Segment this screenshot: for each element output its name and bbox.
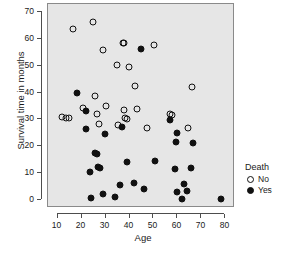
data-point-yes (99, 190, 106, 197)
data-point-yes (124, 158, 131, 165)
legend-label-no: No (258, 175, 269, 184)
y-axis-line (41, 11, 42, 199)
data-point-yes (101, 130, 108, 137)
x-axis-tick (81, 214, 82, 218)
y-axis-tick (37, 38, 41, 39)
data-point-yes (172, 139, 179, 146)
data-point-yes (137, 46, 144, 53)
data-point-no (126, 64, 133, 71)
data-point-yes (97, 165, 104, 172)
x-axis-title: Age (0, 232, 286, 243)
legend-title: Death (245, 163, 286, 173)
data-point-yes (151, 157, 158, 164)
y-axis-tick-label: 70 (5, 7, 34, 16)
data-point-yes (179, 196, 186, 203)
data-point-yes (119, 124, 126, 131)
data-point-no (120, 106, 127, 113)
data-point-yes (74, 90, 81, 97)
data-point-yes (82, 108, 89, 115)
data-point-no (151, 42, 158, 49)
x-axis-tick-label: 80 (220, 221, 229, 230)
x-axis-tick (152, 214, 153, 218)
y-axis-tick (37, 118, 41, 119)
data-point-no (121, 39, 128, 46)
x-axis-tick-label: 70 (196, 221, 205, 230)
x-axis-tick (200, 214, 201, 218)
y-axis-tick (37, 11, 41, 12)
x-axis-tick-label: 10 (52, 221, 61, 230)
data-point-yes (116, 182, 123, 189)
data-point-no (90, 19, 97, 26)
data-point-no (188, 84, 195, 91)
data-point-yes (187, 165, 194, 172)
data-point-no (91, 93, 98, 100)
data-point-yes (130, 180, 137, 187)
data-point-no (70, 25, 77, 32)
x-axis-tick (129, 214, 130, 218)
x-axis-tick-label: 40 (124, 221, 133, 230)
data-point-yes (93, 151, 100, 158)
data-point-yes (181, 180, 188, 187)
x-axis-tick (57, 214, 58, 218)
data-point-no (113, 61, 120, 68)
y-axis-tick (37, 172, 41, 173)
data-point-yes (171, 165, 178, 172)
legend-item-yes: Yes (245, 185, 286, 196)
data-point-yes (173, 130, 180, 137)
data-point-no (133, 106, 140, 113)
data-point-no (65, 115, 72, 122)
data-point-yes (173, 188, 180, 195)
data-point-yes (189, 140, 196, 147)
filled-circle-icon (245, 187, 256, 194)
data-point-yes (87, 169, 94, 176)
scatter-chart: 0102030405060701020304050607080 Age Surv… (0, 0, 286, 255)
x-axis-tick (105, 214, 106, 218)
data-point-yes (83, 125, 90, 132)
legend-item-no: No (245, 174, 286, 185)
y-axis-tick (37, 65, 41, 66)
y-axis-tick (37, 92, 41, 93)
y-axis-tick-label: 0 (5, 195, 34, 204)
data-point-yes (217, 195, 224, 202)
x-axis-tick (176, 214, 177, 218)
open-circle-icon (245, 176, 256, 183)
data-point-yes (111, 194, 118, 201)
data-point-yes (88, 195, 95, 202)
data-point-no (123, 115, 130, 122)
legend: Death No Yes (245, 163, 286, 196)
data-point-no (96, 120, 103, 127)
x-axis-tick-label: 20 (76, 221, 85, 230)
x-axis-tick-label: 30 (100, 221, 109, 230)
data-point-no (102, 103, 109, 110)
x-axis-tick (224, 214, 225, 218)
y-axis-title: Survival time in months (15, 26, 26, 176)
data-point-no (94, 110, 101, 117)
data-point-yes (140, 186, 147, 193)
plot-panel (47, 3, 234, 207)
data-point-no (143, 125, 150, 132)
data-point-yes (167, 117, 174, 124)
y-axis-tick (37, 145, 41, 146)
data-point-no (99, 46, 106, 53)
data-point-no (184, 125, 191, 132)
legend-label-yes: Yes (258, 186, 272, 195)
data-point-yes (184, 187, 191, 194)
x-axis-tick-label: 60 (172, 221, 181, 230)
x-axis-line (57, 213, 225, 214)
data-point-no (132, 83, 139, 90)
x-axis-tick-label: 50 (148, 221, 157, 230)
y-axis-tick (37, 199, 41, 200)
